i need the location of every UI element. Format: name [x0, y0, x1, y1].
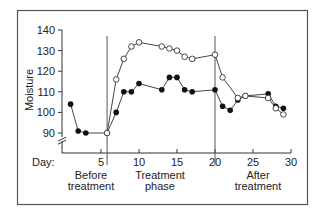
data-point-open — [136, 40, 142, 46]
y-tick-label: 140 — [37, 24, 55, 36]
series-line-open — [107, 42, 283, 133]
x-tick-label: 30 — [285, 156, 297, 168]
data-point-open — [220, 75, 226, 81]
series-line-filled — [71, 77, 284, 133]
data-point-filled — [68, 101, 74, 107]
y-axis-label: Moisture — [23, 65, 35, 115]
phase-label-after-2: treatment — [218, 180, 298, 192]
data-point-open — [167, 46, 173, 52]
data-point-filled — [83, 130, 89, 136]
data-point-filled — [227, 108, 233, 114]
data-point-open — [182, 54, 188, 60]
data-point-filled — [220, 103, 226, 109]
data-point-filled — [159, 87, 165, 93]
data-point-open — [243, 93, 249, 99]
y-tick-label: 120 — [37, 65, 55, 77]
x-tick-label: 5 — [98, 156, 104, 168]
data-point-open — [235, 95, 241, 101]
x-axis-label: Day: — [32, 156, 62, 168]
data-point-filled — [174, 75, 180, 81]
x-tick-label: 10 — [133, 156, 145, 168]
data-point-filled — [182, 87, 188, 93]
data-point-open — [212, 52, 218, 58]
data-point-filled — [113, 110, 119, 116]
y-tick-label: 130 — [37, 45, 55, 57]
y-tick-label: 90 — [43, 127, 55, 139]
phase-label-treatment-2: phase — [120, 180, 200, 192]
x-tick-label: 15 — [171, 156, 183, 168]
data-point-open — [281, 112, 287, 118]
data-point-filled — [121, 89, 127, 95]
data-point-filled — [167, 75, 173, 81]
x-tick-label: 25 — [247, 156, 259, 168]
data-point-open — [189, 56, 195, 62]
data-point-filled — [189, 89, 195, 95]
data-point-filled — [136, 81, 142, 87]
data-point-open — [273, 105, 279, 111]
y-tick-label: 110 — [37, 86, 55, 98]
data-point-filled — [75, 128, 81, 134]
data-point-open — [265, 95, 271, 101]
data-point-filled — [281, 105, 287, 111]
data-point-open — [174, 48, 180, 54]
y-tick-label: 100 — [37, 106, 55, 118]
data-point-filled — [129, 89, 135, 95]
data-point-open — [121, 56, 127, 62]
phase-label-before-2: treatment — [56, 180, 126, 192]
data-point-filled — [212, 87, 218, 93]
data-point-open — [104, 130, 110, 136]
data-point-open — [129, 44, 135, 50]
data-point-open — [159, 44, 165, 50]
data-point-open — [113, 77, 119, 83]
